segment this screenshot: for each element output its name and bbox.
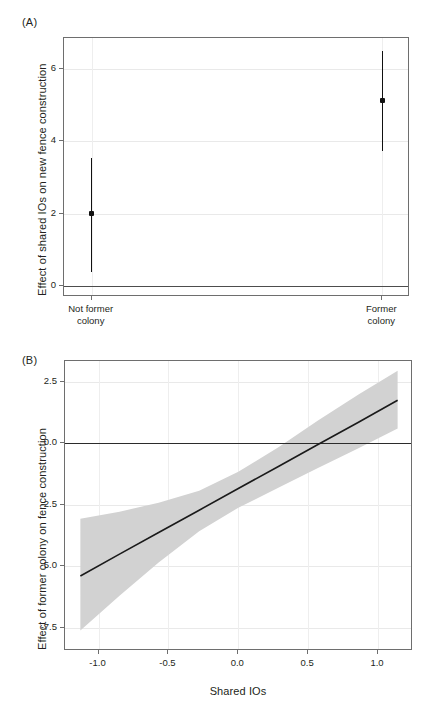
x-axis-tick	[381, 296, 382, 300]
fit-line	[80, 400, 397, 576]
y-axis-tick-label: -5.0	[26, 559, 57, 570]
gridline-horizontal	[64, 69, 408, 70]
panel-a: (A) Effect of shared IOs on new fence co…	[0, 0, 424, 340]
panel-b-x-axis-title: Shared IOs	[64, 685, 412, 697]
y-axis-tick-label: 2.5	[26, 375, 57, 386]
fit-line-svg	[65, 361, 413, 651]
x-axis-tick	[237, 650, 238, 654]
x-axis-category-label-line: Not former	[31, 303, 151, 315]
panel-a-letter: (A)	[22, 16, 37, 28]
y-axis-tick	[60, 381, 64, 382]
x-axis-category-label: Not formercolony	[31, 303, 151, 327]
x-axis-category-label-line: colony	[31, 315, 151, 327]
x-axis-tick-label: -0.5	[142, 657, 192, 668]
x-axis-tick	[167, 650, 168, 654]
x-axis-category-label: Formercolony	[321, 303, 424, 327]
y-axis-tick	[60, 565, 64, 566]
x-axis-category-label-line: colony	[321, 315, 424, 327]
y-axis-tick-label: 0.0	[26, 436, 57, 447]
y-axis-tick-label: 2	[31, 207, 56, 218]
y-axis-tick	[59, 140, 63, 141]
x-axis-tick-label: 0.0	[212, 657, 262, 668]
x-axis-tick	[91, 296, 92, 300]
y-axis-tick-label: 6	[31, 62, 56, 73]
y-axis-tick-label: -7.5	[26, 621, 57, 632]
y-axis-tick-label: -2.5	[26, 498, 57, 509]
zero-reference-line	[64, 286, 408, 287]
y-axis-tick-label: 4	[31, 134, 56, 145]
y-axis-tick	[59, 213, 63, 214]
y-axis-tick	[60, 504, 64, 505]
x-axis-tick-label: -1.0	[73, 657, 123, 668]
panel-a-y-axis-title: Effect of shared IOs on new fence constr…	[36, 64, 48, 296]
panel-b-y-axis-title: Effect of former colony on fence constru…	[36, 428, 48, 650]
x-axis-tick	[98, 650, 99, 654]
x-axis-tick-label: 0.5	[282, 657, 332, 668]
x-axis-tick-label: 1.0	[352, 657, 402, 668]
y-axis-tick-label: 0	[31, 279, 56, 290]
gridline-horizontal	[64, 141, 408, 142]
panel-b-letter: (B)	[22, 354, 37, 366]
y-axis-tick	[59, 68, 63, 69]
x-axis-tick	[307, 650, 308, 654]
gridline-horizontal	[64, 214, 408, 215]
panel-b: (B) Effect of former colony on fence con…	[0, 340, 424, 707]
panel-b-plot-area	[64, 360, 412, 650]
data-point	[89, 211, 94, 216]
y-axis-tick	[59, 285, 63, 286]
x-axis-category-label-line: Former	[321, 303, 424, 315]
y-axis-tick	[60, 627, 64, 628]
x-axis-tick	[377, 650, 378, 654]
y-axis-tick	[60, 442, 64, 443]
data-point	[380, 98, 385, 103]
panel-a-plot-area	[63, 37, 409, 296]
